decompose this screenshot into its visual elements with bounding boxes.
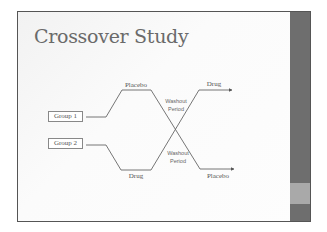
top-left-label: Placebo [125,81,148,89]
group-1-path [86,90,234,169]
bottom-left-label: Drug [129,172,144,180]
washout-top-line2: Period [168,106,184,112]
washout-bottom-line1: Washout [167,150,189,156]
slide: Crossover Study Group 1 Group 2 Placebo … [17,11,311,222]
top-right-label: Drug [207,80,222,88]
crossover-diagram: Placebo Drug Drug Placebo Washout Period… [18,12,311,222]
bottom-right-label: Placebo [207,172,230,180]
washout-top-line1: Washout [165,98,187,104]
washout-bottom-line2: Period [170,158,186,164]
group-2-path [86,90,232,170]
